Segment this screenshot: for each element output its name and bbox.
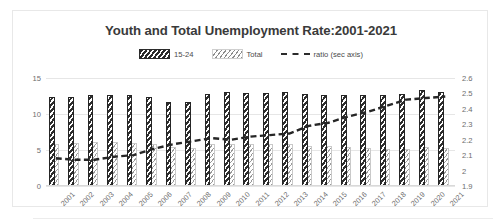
x-axis-line bbox=[46, 185, 455, 186]
bar-group bbox=[65, 78, 84, 186]
chart-frame: Youth and Total Unemployment Rate:2001-2… bbox=[12, 10, 488, 207]
y2-tick-label: 2 bbox=[462, 166, 466, 175]
bar-group bbox=[416, 78, 435, 186]
y2-tick-label: 2.3 bbox=[462, 120, 473, 129]
legend-item-youth[interactable]: 15-24 bbox=[139, 49, 193, 59]
bar-group bbox=[319, 78, 338, 186]
bar-group bbox=[182, 78, 201, 186]
y-tick-label: 0 bbox=[37, 182, 41, 191]
x-tick-label: 2017 bbox=[370, 190, 388, 208]
x-tick-label: 2016 bbox=[351, 190, 369, 208]
x-tick-label: 2020 bbox=[429, 190, 447, 208]
bar-group bbox=[202, 78, 221, 186]
y2-tick-label: 2.1 bbox=[462, 151, 473, 160]
y2-tick-label: 1.9 bbox=[462, 182, 473, 191]
x-tick-label: 2003 bbox=[98, 190, 116, 208]
y-tick-label: 5 bbox=[37, 146, 41, 155]
y2-tick-label: 2.2 bbox=[462, 135, 473, 144]
bar-group bbox=[377, 78, 396, 186]
bar-youth bbox=[224, 92, 230, 186]
bar-group bbox=[46, 78, 65, 186]
bar-group bbox=[85, 78, 104, 186]
bar-group bbox=[280, 78, 299, 186]
chart-legend: 15-24 Total ratio (sec axis) bbox=[13, 49, 489, 59]
bar-group bbox=[358, 78, 377, 186]
x-tick-label: 2010 bbox=[234, 190, 252, 208]
bar-youth bbox=[146, 97, 152, 186]
y2-tick-label: 2.5 bbox=[462, 89, 473, 98]
legend-label-ratio: ratio (sec axis) bbox=[314, 50, 363, 59]
bar-youth bbox=[341, 95, 347, 186]
x-tick-label: 2019 bbox=[409, 190, 427, 208]
x-tick-label: 2021 bbox=[448, 190, 466, 208]
x-tick-label: 2014 bbox=[312, 190, 330, 208]
x-tick-label: 2013 bbox=[292, 190, 310, 208]
x-tick-label: 2011 bbox=[253, 190, 271, 208]
bar-group bbox=[143, 78, 162, 186]
bar-youth bbox=[185, 102, 191, 186]
x-tick-label: 2005 bbox=[136, 190, 154, 208]
bar-youth bbox=[68, 97, 74, 186]
bar-youth bbox=[302, 94, 308, 186]
bar-group bbox=[397, 78, 416, 186]
chart-title: Youth and Total Unemployment Rate:2001-2… bbox=[13, 23, 489, 38]
y2-tick-label: 2.6 bbox=[462, 74, 473, 83]
y-tick-label: 10 bbox=[33, 110, 41, 119]
x-tick-label: 2018 bbox=[390, 190, 408, 208]
bar-youth bbox=[438, 92, 444, 186]
bar-youth bbox=[380, 95, 386, 186]
x-tick-label: 2001 bbox=[59, 190, 77, 208]
bar-group bbox=[163, 78, 182, 186]
legend-label-youth: 15-24 bbox=[174, 50, 193, 59]
x-tick-label: 2004 bbox=[117, 190, 135, 208]
bar-youth bbox=[263, 93, 269, 186]
bar-youth bbox=[419, 90, 425, 186]
bar-group bbox=[260, 78, 279, 186]
x-tick-label: 2015 bbox=[331, 190, 349, 208]
bar-group bbox=[124, 78, 143, 186]
gridline bbox=[46, 186, 455, 187]
bar-youth bbox=[282, 92, 288, 186]
x-tick-label: 2009 bbox=[214, 190, 232, 208]
bar-youth bbox=[88, 95, 94, 186]
dashed-line-swatch-icon bbox=[281, 53, 310, 55]
bar-group bbox=[338, 78, 357, 186]
bar-youth bbox=[205, 94, 211, 186]
legend-item-ratio[interactable]: ratio (sec axis) bbox=[281, 50, 363, 59]
legend-item-total[interactable]: Total bbox=[212, 49, 263, 59]
x-tick-label: 2012 bbox=[273, 190, 291, 208]
bar-youth bbox=[321, 95, 327, 186]
bar-group bbox=[221, 78, 240, 186]
hatched-bar-swatch-icon bbox=[139, 49, 170, 59]
plot-area: 051015 1.922.12.22.32.42.52.6 bbox=[46, 78, 455, 186]
bar-group bbox=[299, 78, 318, 186]
bar-youth bbox=[399, 94, 405, 186]
x-tick-label: 2006 bbox=[156, 190, 174, 208]
legend-label-total: Total bbox=[247, 50, 263, 59]
x-axis-labels: 2001200220032004200520062007200820092010… bbox=[46, 188, 455, 218]
bar-group bbox=[436, 78, 455, 186]
bar-group bbox=[104, 78, 123, 186]
x-tick-label: 2008 bbox=[195, 190, 213, 208]
bar-youth bbox=[127, 95, 133, 186]
dotted-bar-swatch-icon bbox=[212, 49, 243, 59]
bar-youth bbox=[107, 95, 113, 186]
x-tick-label: 2007 bbox=[175, 190, 193, 208]
bar-youth bbox=[360, 95, 366, 186]
bar-group bbox=[241, 78, 260, 186]
bar-youth bbox=[166, 102, 172, 186]
y2-tick-label: 2.4 bbox=[462, 104, 473, 113]
bar-youth bbox=[243, 93, 249, 186]
y-tick-label: 15 bbox=[33, 74, 41, 83]
x-tick-label: 2002 bbox=[78, 190, 96, 208]
bar-youth bbox=[49, 97, 55, 186]
